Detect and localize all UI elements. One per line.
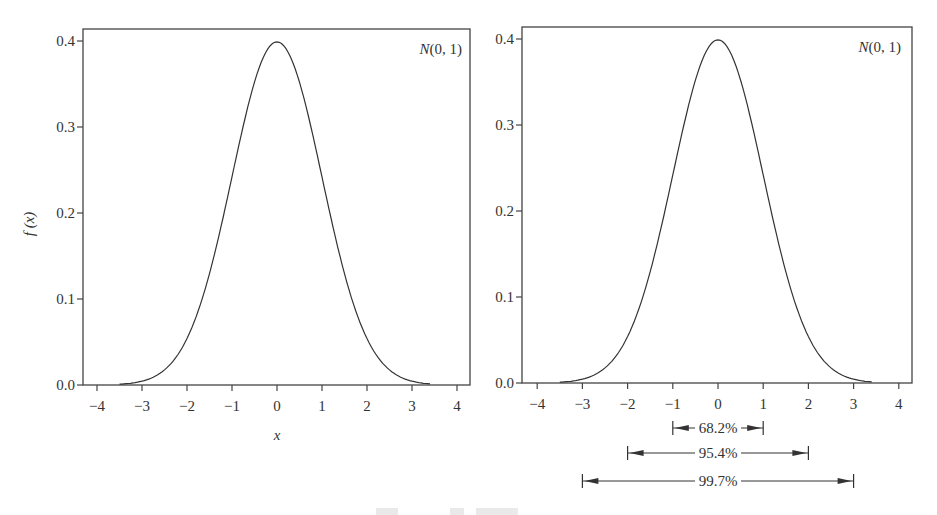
- y-tick-label: 0.1: [56, 291, 75, 307]
- x-tick-label: 0: [714, 396, 722, 412]
- x-tick-label: 3: [408, 398, 416, 414]
- arrow-left-icon: [630, 450, 644, 456]
- interval-68-2pct: 68.2%: [673, 420, 763, 436]
- interval-label: 68.2%: [699, 420, 738, 436]
- y-axis-label: f (x): [21, 212, 38, 237]
- x-tick-label: 0: [273, 398, 281, 414]
- arrow-right-icon: [747, 425, 761, 431]
- x-axis-label: x: [273, 427, 281, 443]
- y-tick-label: 0.4: [56, 33, 75, 49]
- y-tick-label: 0.1: [495, 289, 514, 305]
- y-tick-label: 0.3: [56, 119, 75, 135]
- y-tick-label: 0.0: [56, 377, 75, 393]
- left-distribution-label: N(0, 1): [418, 41, 462, 58]
- y-tick-label: 0.2: [495, 203, 514, 219]
- arrow-right-icon: [792, 450, 806, 456]
- x-tick-label: −1: [665, 396, 681, 412]
- figure: −4−3−2−101234 0.00.10.20.30.4 N(0, 1) x …: [0, 0, 937, 515]
- x-tick-label: 1: [759, 396, 767, 412]
- interval-95-4pct: 95.4%: [628, 445, 809, 461]
- y-tick-label: 0.4: [495, 31, 514, 47]
- x-tick-label: −1: [224, 398, 240, 414]
- interval-99-7pct: 99.7%: [582, 473, 853, 489]
- left-plot-frame: [83, 29, 470, 385]
- right-x-axis-ticks: −4−3−2−101234: [529, 383, 903, 412]
- x-tick-label: −3: [134, 398, 150, 414]
- left-y-axis-ticks: 0.00.10.20.30.4: [56, 33, 83, 393]
- arrow-left-icon: [675, 425, 689, 431]
- x-tick-label: −2: [179, 398, 195, 414]
- right-normal-curve: [560, 40, 872, 382]
- x-tick-label: −2: [620, 396, 636, 412]
- x-tick-label: −4: [89, 398, 105, 414]
- right-y-axis-ticks: 0.00.10.20.30.4: [495, 31, 522, 391]
- left-chart-panel: −4−3−2−101234 0.00.10.20.30.4 N(0, 1) x …: [21, 29, 470, 443]
- x-tick-label: 1: [318, 398, 326, 414]
- right-chart-panel: −4−3−2−101234 0.00.10.20.30.4 N(0, 1) 68…: [495, 27, 912, 489]
- y-tick-label: 0.2: [56, 205, 75, 221]
- x-tick-label: −4: [529, 396, 545, 412]
- y-tick-label: 0.0: [495, 375, 514, 391]
- x-tick-label: 3: [850, 396, 858, 412]
- right-plot-frame: [522, 27, 912, 383]
- y-tick-label: 0.3: [495, 117, 514, 133]
- arrow-left-icon: [584, 478, 598, 484]
- interval-label: 99.7%: [699, 473, 738, 489]
- interval-label: 95.4%: [699, 445, 738, 461]
- x-tick-label: 4: [453, 398, 461, 414]
- left-x-axis-ticks: −4−3−2−101234: [89, 385, 461, 414]
- left-normal-curve: [120, 42, 431, 384]
- right-distribution-label: N(0, 1): [857, 39, 901, 56]
- x-tick-label: 2: [363, 398, 371, 414]
- sigma-interval-annotations: 68.2%95.4%99.7%: [582, 420, 853, 489]
- clipped-caption-remnant: [376, 508, 518, 515]
- arrow-right-icon: [838, 478, 852, 484]
- x-tick-label: −3: [574, 396, 590, 412]
- x-tick-label: 2: [805, 396, 813, 412]
- x-tick-label: 4: [895, 396, 903, 412]
